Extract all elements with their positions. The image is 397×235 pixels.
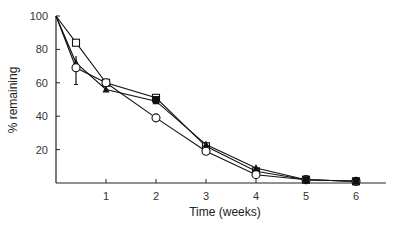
y-tick-label: 80 <box>36 43 48 55</box>
data-point-square-filled-icon <box>153 96 160 103</box>
series-open-circle <box>56 16 360 185</box>
x-tick-label: 1 <box>103 190 109 202</box>
series-filled-triangle <box>56 16 360 184</box>
line-chart: 20406080100 123456 Time (weeks) % remain… <box>0 0 397 235</box>
x-tick-label: 3 <box>203 190 209 202</box>
data-point-circle-open-icon <box>252 171 260 179</box>
x-tick-label: 5 <box>303 190 309 202</box>
data-point-square-open-icon <box>73 39 80 46</box>
data-point-square-filled-icon <box>353 178 360 185</box>
x-tick-label: 2 <box>153 190 159 202</box>
y-tick-label: 100 <box>30 10 48 22</box>
data-point-circle-open-icon <box>202 147 210 155</box>
series-line <box>56 16 356 181</box>
y-axis-label: % remaining <box>6 67 20 134</box>
y-tick-label: 20 <box>36 144 48 156</box>
data-point-circle-open-icon <box>102 79 110 87</box>
data-point-circle-open-icon <box>152 114 160 122</box>
series-open-square <box>56 16 360 185</box>
series-line <box>56 16 356 181</box>
x-tick-label: 4 <box>253 190 259 202</box>
y-tick-label: 40 <box>36 110 48 122</box>
data-point-circle-open-icon <box>72 64 80 72</box>
x-tick-label: 6 <box>353 190 359 202</box>
x-axis-label: Time (weeks) <box>189 205 261 219</box>
y-tick-label: 60 <box>36 77 48 89</box>
data-series <box>56 16 360 185</box>
series-line <box>56 16 356 181</box>
data-point-square-filled-icon <box>303 176 310 183</box>
